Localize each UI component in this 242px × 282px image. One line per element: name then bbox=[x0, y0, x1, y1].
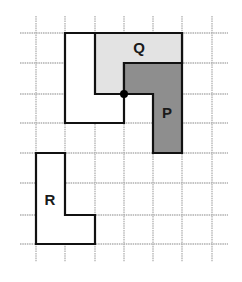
label-r: R bbox=[45, 191, 56, 208]
label-p: P bbox=[162, 104, 172, 121]
rotation-center-dot bbox=[120, 90, 128, 98]
shape-p bbox=[124, 63, 182, 153]
grid-diagram: Q P R bbox=[0, 0, 242, 282]
label-q: Q bbox=[133, 39, 145, 56]
